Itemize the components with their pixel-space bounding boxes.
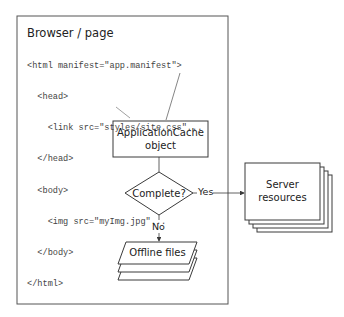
server-label-line1: Server (245, 178, 320, 191)
appcache-label: ApplicationCache object (113, 126, 208, 152)
code-line: </head> (27, 154, 202, 164)
decision-label: Complete? (125, 187, 193, 200)
appcache-label-line1: ApplicationCache (113, 126, 208, 139)
server-resources-label: Server resources (245, 178, 320, 204)
server-label-line2: resources (245, 191, 320, 204)
browser-page-title: Browser / page (27, 26, 114, 40)
appcache-label-line2: object (113, 139, 208, 152)
html-code-listing: <html manifest="app.manifest"> <head> <l… (27, 40, 202, 310)
offline-files-label: Offline files (118, 246, 197, 259)
diagram-canvas: Browser / page <html manifest="app.manif… (0, 0, 344, 317)
no-label: No (152, 221, 165, 232)
code-line: </html> (27, 279, 202, 289)
code-line: <head> (27, 92, 202, 102)
code-line: <html manifest="app.manifest"> (27, 61, 202, 71)
code-line: <img src="myImg.jpg"... (27, 217, 202, 227)
yes-label: Yes (198, 186, 213, 197)
